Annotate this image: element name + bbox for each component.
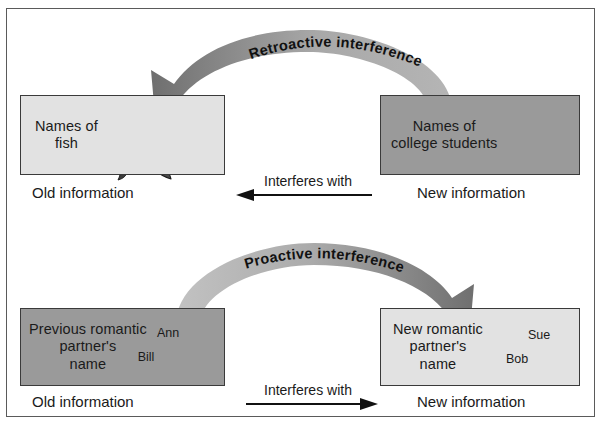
caption-old-information-top: Old information [32,184,134,201]
heart-label-sue: Sue [524,328,554,342]
heart-label-bob: Bob [502,352,532,366]
caption-old-information-bottom: Old information [32,393,134,410]
box-names-of-fish[interactable]: Names of fish [20,95,225,175]
box-previous-romantic-partner-label: Previous romantic partner's name [29,321,147,372]
caption-new-information-bottom: New information [417,393,525,410]
heart-label-ann: Ann [153,326,183,340]
caption-new-information-top: New information [417,184,525,201]
interferes-with-label-top: Interferes with [264,173,352,189]
box-new-romantic-partner[interactable]: New romantic partner's name [380,308,580,386]
box-new-romantic-partner-label: New romantic partner's name [393,321,483,372]
heart-label-bill: Bill [131,350,161,364]
box-names-of-fish-label: Names of fish [35,118,98,152]
box-names-of-college-students[interactable]: Names of college students [380,95,580,175]
box-previous-romantic-partner[interactable]: Previous romantic partner's name [20,308,225,386]
interferes-with-label-bottom: Interferes with [264,382,352,398]
box-names-of-college-students-label: Names of college students [391,118,497,152]
